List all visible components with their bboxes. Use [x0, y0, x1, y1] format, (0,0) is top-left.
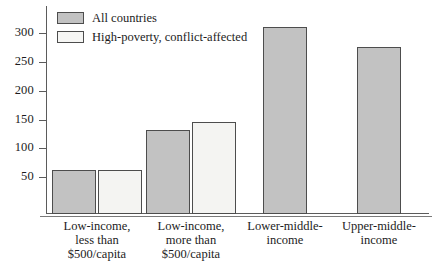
chart-legend: All countries High-poverty, conflict-aff…: [57, 9, 247, 47]
x-axis-label-4: Upper-middle- income: [326, 219, 432, 247]
y-axis-tick-250: 250: [39, 62, 46, 63]
x-axis-label-3: Lower-middle- income: [232, 219, 338, 247]
legend-swatch-icon-all-countries: [57, 12, 84, 24]
y-axis-tick-300: 300: [39, 33, 46, 34]
y-axis-tick-label-100: 100: [15, 140, 34, 155]
y-axis-tick-label-300: 300: [15, 25, 34, 40]
y-axis-tick-label-50: 50: [21, 169, 34, 184]
y-axis-line: [46, 6, 47, 214]
y-axis-tick-label-200: 200: [15, 83, 34, 98]
x-axis-label-1: Low-income, less than $500/capita: [44, 219, 150, 261]
y-axis-tick-label-150: 150: [15, 112, 34, 127]
bar-all-countries-group-1: [52, 170, 96, 214]
y-axis-tick-200: 200: [39, 91, 46, 92]
legend-label-all-countries: All countries: [92, 11, 157, 25]
legend-item-high-poverty-conflict-affected: High-poverty, conflict-affected: [57, 28, 247, 45]
y-axis-tick-100: 100: [39, 148, 46, 149]
bar-chart: 30025020015010050 Low-income, less than …: [0, 0, 435, 264]
bar-high-poverty-group-2: [192, 122, 236, 214]
y-axis-tick-50: 50: [39, 177, 46, 178]
x-axis-baseline-rule: [40, 216, 432, 217]
legend-label-high-poverty: High-poverty, conflict-affected: [92, 30, 247, 44]
x-axis-label-2: Low-income, more than $500/capita: [138, 219, 244, 261]
bar-all-countries-group-3: [263, 27, 307, 214]
bar-all-countries-group-2: [146, 130, 190, 214]
legend-item-all-countries: All countries: [57, 9, 247, 26]
bar-high-poverty-group-1: [98, 170, 142, 214]
y-axis-tick-150: 150: [39, 120, 46, 121]
y-axis-tick-label-250: 250: [15, 54, 34, 69]
legend-swatch-icon-high-poverty: [57, 31, 84, 43]
bar-all-countries-group-4: [357, 47, 401, 214]
